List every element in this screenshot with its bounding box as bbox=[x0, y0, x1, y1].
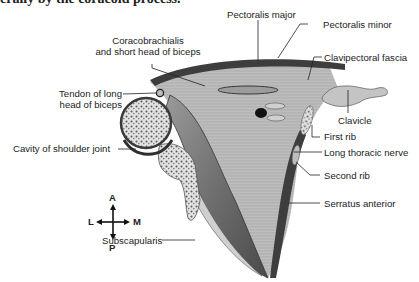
compass-medial: M bbox=[133, 216, 141, 227]
label-tendon-long-head-biceps: Tendon of long head of biceps bbox=[30, 88, 122, 110]
shoulder-cross-section-illustration bbox=[0, 0, 419, 282]
label-clavicle: Clavicle bbox=[338, 115, 372, 126]
pectoralis-minor-shape bbox=[218, 86, 278, 94]
biceps-tendon-shape bbox=[156, 89, 163, 96]
compass-posterior: P bbox=[109, 242, 115, 253]
label-pectoralis-major: Pectoralis major bbox=[227, 9, 296, 20]
label-coracobrachialis: Coracobrachialis and short head of bicep… bbox=[88, 35, 208, 57]
label-serratus-anterior: Serratus anterior bbox=[324, 198, 395, 209]
compass-anterior: A bbox=[109, 192, 116, 203]
label-pectoralis-minor: Pectoralis minor bbox=[323, 19, 392, 30]
label-clavipectoral-fascia: Clavipectoral fascia bbox=[324, 52, 407, 63]
humeral-head bbox=[121, 98, 171, 148]
clavicle-shape bbox=[322, 86, 387, 107]
compass-lateral: L bbox=[88, 216, 94, 227]
label-cavity-shoulder-joint: Cavity of shoulder joint bbox=[13, 143, 110, 154]
label-long-thoracic-nerve: Long thoracic nerve bbox=[324, 147, 408, 158]
label-second-rib: Second rib bbox=[324, 170, 370, 181]
label-first-rib: First rib bbox=[324, 131, 356, 142]
